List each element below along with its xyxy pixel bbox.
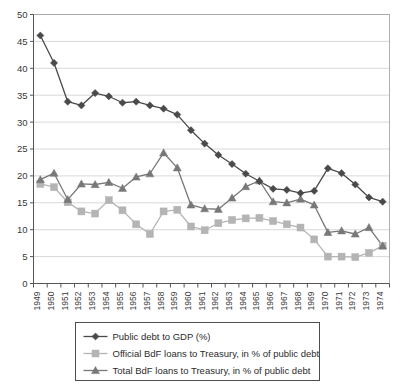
x-tick-label: 1973 xyxy=(361,291,371,310)
x-tick-label: 1966 xyxy=(265,291,275,310)
series-markers-1 xyxy=(37,32,387,205)
data-point-diamond xyxy=(37,32,44,39)
x-tick-label: 1968 xyxy=(293,291,303,310)
x-tick-label: 1970 xyxy=(320,291,330,310)
legend-label: Official BdF loans to Treasury, in % of … xyxy=(113,348,320,359)
x-tick-label: 1971 xyxy=(334,291,344,310)
data-point-square xyxy=(174,206,181,213)
chart-legend: Public debt to GDP (%)Official BdF loans… xyxy=(76,323,320,381)
series-line-2 xyxy=(40,184,382,257)
series-markers-3 xyxy=(36,149,386,249)
data-point-triangle xyxy=(50,169,58,176)
data-point-diamond xyxy=(283,186,290,193)
y-tick-label: 40 xyxy=(17,63,28,74)
data-point-diamond xyxy=(311,187,318,194)
data-point-square xyxy=(338,253,345,260)
data-point-square xyxy=(352,254,359,261)
data-point-triangle xyxy=(187,201,195,208)
x-tick-label: 1953 xyxy=(87,291,97,310)
data-point-diamond xyxy=(50,59,57,66)
x-tick-label: 1949 xyxy=(32,291,42,310)
x-tick-label: 1963 xyxy=(224,291,234,310)
data-point-square xyxy=(283,221,290,228)
data-point-square xyxy=(365,249,372,256)
y-tick-label: 25 xyxy=(17,143,28,154)
data-point-diamond xyxy=(119,99,126,106)
legend-entry[interactable]: Total BdF loans to Treasury, in % of pub… xyxy=(84,365,311,376)
y-tick-label: 35 xyxy=(17,90,28,101)
data-point-square xyxy=(78,208,85,215)
data-point-square xyxy=(146,231,153,238)
y-tick-label: 10 xyxy=(17,224,28,235)
x-axis-labels: 1949195019511952195319541955195619571958… xyxy=(32,291,384,310)
data-point-diamond xyxy=(105,93,112,100)
legend-entry[interactable]: Official BdF loans to Treasury, in % of … xyxy=(84,348,320,359)
data-point-square xyxy=(51,184,58,191)
x-tick-label: 1954 xyxy=(101,291,111,310)
y-tick-label: 45 xyxy=(17,36,28,47)
data-point-triangle xyxy=(310,201,318,208)
y-tick-label: 0 xyxy=(22,278,27,289)
data-point-diamond xyxy=(133,98,140,105)
x-tick-label: 1961 xyxy=(197,291,207,310)
y-tick-label: 50 xyxy=(17,9,28,20)
series-lines-group xyxy=(40,35,382,257)
x-tick-label: 1965 xyxy=(251,291,261,310)
x-tick-label: 1964 xyxy=(238,291,248,310)
x-tick-label: 1959 xyxy=(169,291,179,310)
x-tick-label: 1962 xyxy=(210,291,220,310)
data-point-triangle xyxy=(269,198,277,205)
data-point-diamond xyxy=(64,98,71,105)
data-point-triangle xyxy=(105,178,113,185)
gridlines-group xyxy=(34,15,390,257)
x-tick-label: 1972 xyxy=(347,291,357,310)
y-axis-labels: 05101520253035404550 xyxy=(17,9,28,289)
y-tick-label: 15 xyxy=(17,197,28,208)
data-point-square xyxy=(92,350,99,357)
data-point-square xyxy=(133,221,140,228)
x-tick-label: 1956 xyxy=(128,291,138,310)
data-point-square xyxy=(92,210,99,217)
data-point-square xyxy=(229,217,236,224)
data-point-diamond xyxy=(379,198,386,205)
y-tick-label: 30 xyxy=(17,117,28,128)
data-point-square xyxy=(270,218,277,225)
x-tick-label: 1950 xyxy=(46,291,56,310)
data-point-square xyxy=(187,223,194,230)
x-axis-ticks xyxy=(34,284,390,288)
data-point-triangle xyxy=(242,183,250,190)
x-tick-label: 1955 xyxy=(115,291,125,310)
legend-label: Public debt to GDP (%) xyxy=(113,331,211,342)
x-tick-label: 1967 xyxy=(279,291,289,310)
x-tick-label: 1969 xyxy=(306,291,316,310)
x-tick-label: 1960 xyxy=(183,291,193,310)
data-point-square xyxy=(215,220,222,227)
data-point-diamond xyxy=(146,102,153,109)
data-point-square xyxy=(256,214,263,221)
data-point-square xyxy=(119,207,126,214)
line-chart: 05101520253035404550 1949195019511952195… xyxy=(0,0,399,387)
data-point-diamond xyxy=(160,105,167,112)
x-tick-label: 1957 xyxy=(142,291,152,310)
x-tick-label: 1974 xyxy=(375,291,385,310)
x-tick-label: 1958 xyxy=(156,291,166,310)
data-point-square xyxy=(201,227,208,234)
data-point-triangle xyxy=(146,170,154,177)
data-point-diamond xyxy=(297,190,304,197)
data-point-square xyxy=(297,224,304,231)
data-point-square xyxy=(311,236,318,243)
data-point-diamond xyxy=(270,185,277,192)
y-axis-ticks xyxy=(30,15,34,284)
y-tick-label: 5 xyxy=(22,251,27,262)
y-tick-label: 20 xyxy=(17,170,28,181)
data-point-triangle xyxy=(338,227,346,234)
series-line-3 xyxy=(40,153,382,246)
x-tick-label: 1951 xyxy=(60,291,70,310)
data-point-diamond xyxy=(324,165,331,172)
x-tick-label: 1952 xyxy=(73,291,83,310)
data-point-square xyxy=(105,197,112,204)
series-line-1 xyxy=(40,35,382,201)
data-point-square xyxy=(242,215,249,222)
data-point-triangle xyxy=(36,176,44,183)
data-point-square xyxy=(324,253,331,260)
